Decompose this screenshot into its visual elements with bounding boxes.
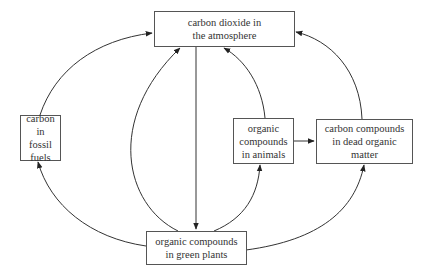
node-atmosphere: carbon dioxide in the atmosphere bbox=[154, 11, 295, 47]
node-animals-label: organic compounds in animals bbox=[239, 122, 287, 161]
node-green-plants: organic compounds in green plants bbox=[146, 231, 247, 265]
node-dead-organic-matter-label: carbon compounds in dead organic matter bbox=[325, 122, 405, 161]
node-fossil-fuels-label: carbon in fossil fuels bbox=[24, 112, 57, 164]
node-green-plants-label: organic compounds in green plants bbox=[155, 235, 237, 261]
node-fossil-fuels: carbon in fossil fuels bbox=[20, 115, 61, 161]
node-animals: organic compounds in animals bbox=[233, 118, 294, 164]
edge-plants-to-dead bbox=[246, 165, 364, 250]
edge-plants-to-atmosphere bbox=[131, 48, 180, 231]
edge-fossil-to-atmosphere bbox=[40, 33, 152, 115]
edge-animals-to-atmosphere bbox=[224, 48, 265, 118]
edge-plants-to-animals bbox=[214, 165, 260, 231]
node-dead-organic-matter: carbon compounds in dead organic matter bbox=[316, 119, 413, 164]
node-atmosphere-label: carbon dioxide in the atmosphere bbox=[188, 16, 261, 42]
edge-dead-to-atmosphere bbox=[296, 32, 362, 119]
edge-plants-to-fossil bbox=[38, 162, 146, 246]
